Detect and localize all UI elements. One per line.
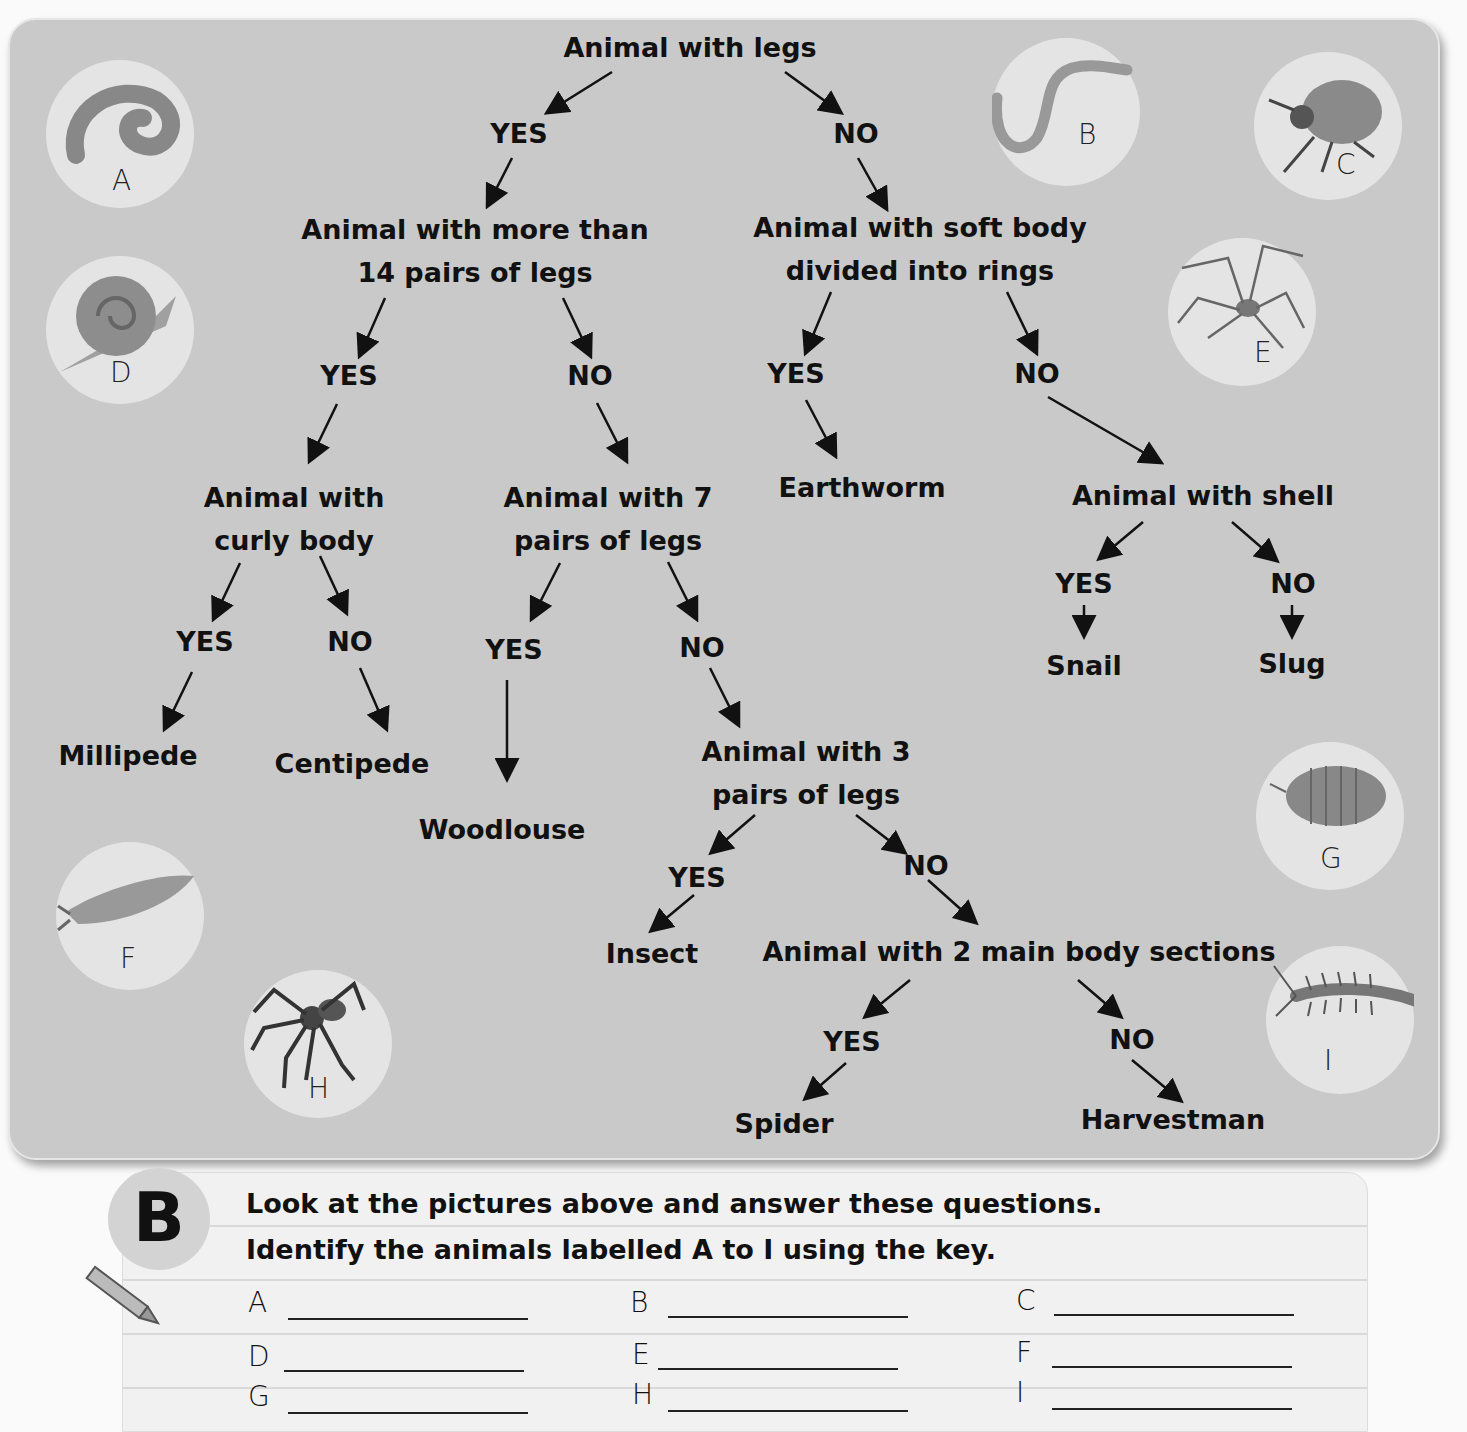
answer-label-a: A — [248, 1286, 267, 1319]
answer-field-d[interactable] — [284, 1370, 524, 1372]
harvestman-icon — [1168, 238, 1316, 386]
earthworm-icon — [992, 38, 1140, 186]
question-task: Identify the animals labelled A to I usi… — [246, 1234, 996, 1265]
answer-field-c[interactable] — [1054, 1314, 1294, 1316]
node-three-pairs: Animal with 3 pairs of legs — [702, 730, 911, 816]
result-insect: Insect — [606, 932, 699, 975]
node-two-sections: Animal with 2 main body sections — [762, 930, 1275, 973]
picture-c: C — [1254, 52, 1402, 200]
picture-d: D — [46, 256, 194, 404]
answer-yes-shell: YES — [1055, 568, 1112, 599]
result-centipede: Centipede — [275, 742, 430, 785]
answer-no-two: NO — [1109, 1024, 1155, 1055]
picture-g: G — [1256, 742, 1404, 890]
answer-label-h: H — [632, 1378, 653, 1411]
picture-label: H — [308, 1072, 329, 1105]
node-seven-pairs: Animal with 7 pairs of legs — [504, 476, 713, 562]
node-line: curly body — [204, 519, 385, 562]
answer-label-d: D — [248, 1340, 270, 1373]
answer-yes-14: YES — [320, 360, 377, 391]
answer-label-e: E — [632, 1338, 650, 1371]
node-line: Animal with more than — [301, 208, 648, 251]
picture-label: D — [110, 356, 132, 389]
answer-no-soft: NO — [1014, 358, 1060, 389]
answer-field-b[interactable] — [668, 1316, 908, 1318]
node-line: Animal with soft body — [753, 206, 1087, 249]
result-slug: Slug — [1258, 642, 1325, 685]
picture-f: F — [56, 842, 204, 990]
result-earthworm: Earthworm — [778, 466, 945, 509]
question-instruction: Look at the pictures above and answer th… — [246, 1188, 1102, 1219]
node-line: Animal with 3 — [702, 730, 911, 773]
answer-no-shell: NO — [1270, 568, 1316, 599]
node-curly-body: Animal with curly body — [204, 476, 385, 562]
node-line: Animal with 7 — [504, 476, 713, 519]
answer-field-e[interactable] — [658, 1368, 898, 1370]
answer-field-h[interactable] — [668, 1410, 908, 1412]
centipede-icon — [1266, 946, 1414, 1094]
picture-label: F — [120, 942, 136, 975]
picture-a: A — [46, 60, 194, 208]
ladybird-icon — [1254, 52, 1402, 200]
answer-field-i[interactable] — [1052, 1408, 1292, 1410]
answer-no-14: NO — [567, 360, 613, 391]
answer-field-f[interactable] — [1052, 1366, 1292, 1368]
picture-label: I — [1324, 1044, 1332, 1077]
picture-i: I — [1266, 946, 1414, 1094]
picture-label: G — [1320, 842, 1342, 875]
answer-no-seven: NO — [679, 632, 725, 663]
key-panel — [8, 18, 1440, 1160]
result-millipede: Millipede — [58, 734, 197, 777]
picture-b: B — [992, 38, 1140, 186]
node-line: pairs of legs — [702, 773, 911, 816]
picture-h: H — [244, 970, 392, 1118]
answer-no-legs: NO — [833, 118, 879, 149]
answer-label-b: B — [630, 1286, 648, 1319]
result-woodlouse: Woodlouse — [419, 808, 586, 851]
answer-label-g: G — [248, 1380, 270, 1413]
node-line: Animal with — [204, 476, 385, 519]
node-line: 14 pairs of legs — [301, 251, 648, 294]
result-snail: Snail — [1046, 644, 1121, 687]
answer-yes-three: YES — [668, 862, 725, 893]
answer-field-g[interactable] — [288, 1412, 528, 1414]
picture-label: C — [1336, 148, 1356, 181]
section-badge-letter: B — [108, 1178, 210, 1257]
answer-yes-seven: YES — [485, 634, 542, 665]
answer-yes-soft: YES — [767, 358, 824, 389]
result-spider: Spider — [735, 1102, 834, 1145]
answer-label-f: F — [1016, 1336, 1032, 1369]
picture-label: A — [112, 164, 131, 197]
answer-yes-legs: YES — [490, 118, 547, 149]
pencil-icon — [78, 1262, 168, 1334]
picture-label: B — [1078, 118, 1096, 151]
section-badge: B — [108, 1168, 210, 1270]
answer-label-i: I — [1016, 1376, 1024, 1409]
node-soft-body: Animal with soft body divided into rings — [753, 206, 1087, 292]
node-more-than-14-pairs: Animal with more than 14 pairs of legs — [301, 208, 648, 294]
node-shell: Animal with shell — [1072, 474, 1334, 517]
answer-yes-two: YES — [823, 1026, 880, 1057]
result-harvestman: Harvestman — [1081, 1098, 1266, 1141]
picture-label: E — [1254, 336, 1272, 369]
node-root: Animal with legs — [563, 26, 816, 69]
node-line: pairs of legs — [504, 519, 713, 562]
answer-no-three: NO — [903, 850, 949, 881]
answer-yes-curly: YES — [176, 626, 233, 657]
answer-field-a[interactable] — [288, 1318, 528, 1320]
answer-label-c: C — [1016, 1284, 1036, 1317]
node-line: divided into rings — [753, 249, 1087, 292]
picture-e: E — [1168, 238, 1316, 386]
answer-no-curly: NO — [327, 626, 373, 657]
